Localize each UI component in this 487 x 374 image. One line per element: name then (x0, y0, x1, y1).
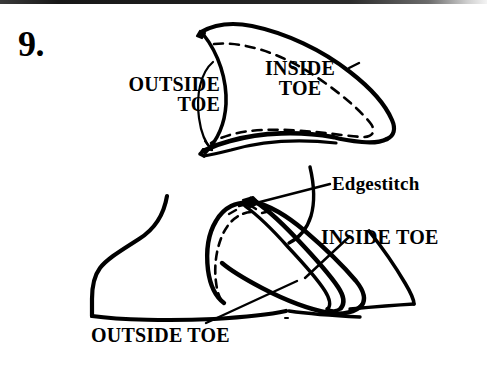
label-edgestitch: Edgestitch (332, 174, 420, 193)
shoe-back-and-sole (92, 196, 167, 316)
shoe-vamp-outline (207, 203, 251, 303)
top-panel-apex-notch (197, 31, 205, 38)
top-panel-right-tip (333, 137, 387, 142)
inside-toe-band-tip (327, 308, 341, 311)
label-outside-toe-top: OUTSIDE TOE (104, 74, 220, 115)
label-outside-toe-bottom: OUTSIDE TOE (91, 325, 230, 345)
label-inside-toe-top: INSIDE TOE (252, 58, 348, 99)
toe-apex-dash-left (229, 210, 236, 214)
step-number: 9. (18, 26, 44, 63)
shoe-vamp-stitch-line (215, 212, 251, 301)
top-panel-inside-toe-leader (349, 63, 359, 68)
shoe-sole-line (92, 311, 286, 320)
label-inside-toe-bottom: INSIDE TOE (321, 227, 438, 247)
figure-page: 9. OUTSIDE TOE INSIDE TOE Edgestitch INS… (0, 0, 487, 374)
edgestitch-leader (256, 184, 330, 203)
